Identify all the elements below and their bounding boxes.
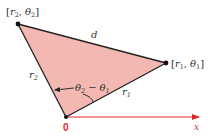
x-axis-label: x [194, 122, 199, 132]
edge-d-label: d [91, 29, 97, 40]
point-p1-label: [r1,θ1] [171, 58, 204, 71]
origin-label: 0 [63, 122, 69, 133]
point-p2-label: [r2,θ2] [6, 6, 39, 19]
edge-r2-label: r2 [29, 69, 38, 82]
edge-r1-label: r1 [122, 86, 131, 99]
polar-distance-diagram: [r2,θ2] [r1,θ1] d r2 r1 θ2−θ1 0 x [0, 0, 208, 136]
origin-dot [64, 115, 68, 119]
point-p1-dot [164, 61, 169, 66]
point-p2-dot [16, 22, 21, 27]
